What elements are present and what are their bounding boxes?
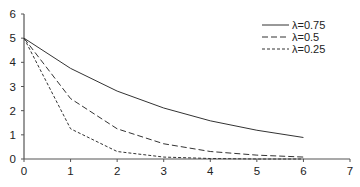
x-tick-label: 5 [254,165,260,177]
x-tick-label: 4 [207,165,214,177]
legend-label: λ=0.5 [292,31,319,43]
series-line-0 [24,38,303,137]
x-tick-label: 3 [161,165,167,177]
y-tick-label: 6 [10,8,16,20]
series-line-2 [24,38,303,159]
y-tick-label: 3 [10,81,16,93]
y-tick-label: 4 [10,56,17,68]
y-tick-label: 2 [10,105,16,117]
legend-label: λ=0.25 [292,43,325,55]
x-tick-label: 6 [300,165,306,177]
y-tick-label: 5 [10,32,16,44]
x-tick-label: 7 [347,165,353,177]
legend: λ=0.75λ=0.5λ=0.25 [262,19,325,55]
y-tick-label: 1 [10,129,16,141]
series-lines [24,38,303,159]
x-tick-label: 2 [114,165,120,177]
line-chart: 012345670123456 λ=0.75λ=0.5λ=0.25 [0,0,360,187]
x-tick-label: 0 [21,165,27,177]
y-tick-label: 0 [10,153,16,165]
series-line-1 [24,38,303,157]
x-tick-label: 1 [67,165,73,177]
legend-label: λ=0.75 [292,19,325,31]
